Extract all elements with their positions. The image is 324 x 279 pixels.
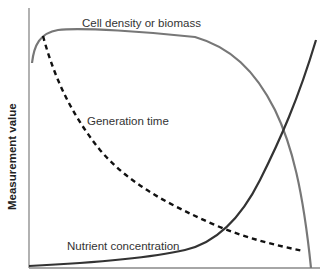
cell-density-label: Cell density or biomass (82, 17, 201, 29)
generation-time-label: Generation time (87, 115, 169, 127)
y-axis-label: Measurement value (6, 103, 18, 210)
line-chart: Measurement value Cell density or biomas… (0, 0, 324, 279)
nutrient-concentration-curve (29, 40, 316, 266)
generation-time-curve (43, 36, 303, 251)
cell-density-curve (32, 29, 311, 268)
chart-plot-area (0, 0, 324, 279)
nutrient-concentration-label: Nutrient concentration (67, 240, 180, 252)
